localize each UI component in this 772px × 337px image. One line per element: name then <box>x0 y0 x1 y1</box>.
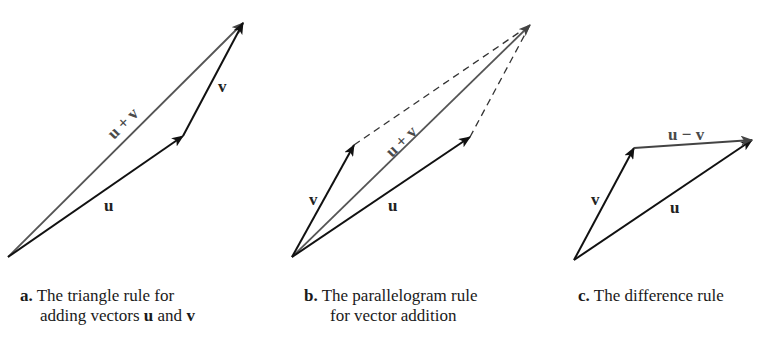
caption-a-v: v <box>186 306 195 325</box>
caption-a: a. The triangle rule for adding vectors … <box>20 286 195 326</box>
vector-u-arrow <box>292 137 470 257</box>
panel-b-parallelogram-rule: u + v v u <box>292 25 530 257</box>
dashed-edge-top <box>354 25 530 145</box>
label-u-plus-v: u + v <box>103 103 142 142</box>
caption-a-letter: a. <box>20 286 33 305</box>
label-v: v <box>309 190 318 209</box>
label-u-plus-v: u + v <box>382 122 422 161</box>
dashed-edge-right <box>470 25 530 137</box>
caption-a-and: and <box>153 306 186 325</box>
label-u: u <box>388 196 397 215</box>
label-v: v <box>218 77 227 96</box>
caption-c: c. The difference rule <box>578 286 724 306</box>
label-u: u <box>670 198 679 217</box>
panel-a-triangle-rule: u + v v u <box>8 23 243 257</box>
caption-b-line1: The parallelogram rule <box>322 286 478 305</box>
label-u: u <box>104 196 113 215</box>
caption-b-line2: for vector addition <box>330 306 457 325</box>
vector-v-arrow <box>574 148 634 260</box>
label-v: v <box>591 190 600 209</box>
caption-a-u: u <box>144 306 153 325</box>
caption-b-letter: b. <box>304 286 318 305</box>
caption-c-letter: c. <box>578 286 590 305</box>
vector-v-arrow <box>183 23 243 136</box>
caption-c-line1: The difference rule <box>594 286 724 305</box>
panel-c-difference-rule: u − v v u <box>574 125 752 260</box>
vector-u-arrow <box>574 140 752 260</box>
label-u-minus-v: u − v <box>668 125 705 144</box>
caption-a-line2-pre: adding vectors <box>40 306 144 325</box>
caption-a-line1: The triangle rule for <box>37 286 174 305</box>
vector-v-arrow <box>292 145 354 257</box>
vector-u-plus-v-arrow <box>8 23 243 257</box>
vector-u-arrow <box>8 136 183 257</box>
caption-b: b. The parallelogram rule for vector add… <box>304 286 477 326</box>
